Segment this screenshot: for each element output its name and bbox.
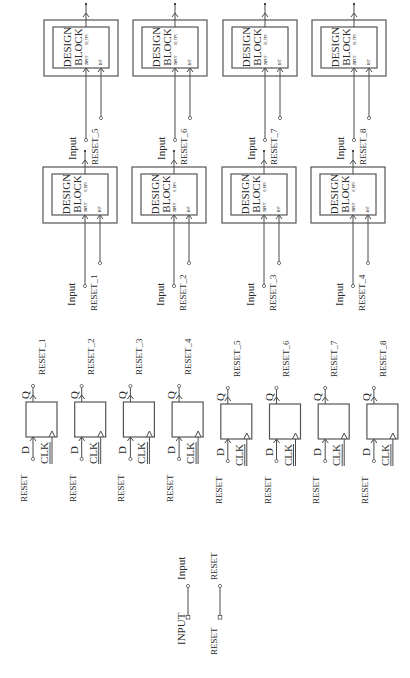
flip-flop-7: DCLKQRESETRESET_7 <box>311 340 349 504</box>
reset-terminal <box>367 116 370 119</box>
input-net-label: Input <box>154 283 166 306</box>
input-net-label: Input <box>155 137 167 160</box>
q-net-label: RESET_6 <box>281 340 291 377</box>
q-label: Q <box>19 391 31 399</box>
d-net-label: RESET <box>165 474 175 502</box>
input-terminal <box>263 138 266 141</box>
q-label: Q <box>214 393 226 401</box>
design-block-port-reset: RST <box>187 206 191 212</box>
q-terminal <box>178 384 181 387</box>
design-block-port-input: INPUT <box>173 203 177 212</box>
d-net-label: RESET <box>116 474 126 502</box>
output-port-marker <box>353 3 355 5</box>
d-net-label: RESET <box>214 476 224 504</box>
d-label: D <box>214 448 226 456</box>
design-block-port-output: O_UPS <box>352 182 356 192</box>
q-terminal <box>80 384 83 387</box>
d-terminal <box>275 459 278 462</box>
input-net-label: Input <box>334 137 346 160</box>
q-net-label: RESET_8 <box>378 340 388 377</box>
input-net-label: Input <box>66 137 78 160</box>
q-terminal <box>275 386 278 389</box>
port-name-label: RESET <box>209 627 219 655</box>
design-block-port-input: INPUT <box>353 56 357 65</box>
reset-terminal <box>98 261 101 264</box>
flip-flop-1: DCLKQRESETRESET_1 <box>19 338 57 502</box>
input-terminal <box>352 138 355 141</box>
design-block-port-output: IO_TPS <box>174 34 178 45</box>
q-label: Q <box>263 393 275 401</box>
port-net-label: Input <box>175 557 187 580</box>
q-label: Q <box>165 391 177 399</box>
reset-net-label: RESET_5 <box>90 128 100 165</box>
d-label: D <box>263 448 275 456</box>
design-block-title-line2: BLOCK <box>250 175 262 212</box>
flip-flop-6: DCLKQRESETRESET_6 <box>263 340 301 504</box>
design-block-port-output: O_UPS <box>84 182 88 192</box>
input-terminal <box>83 284 86 287</box>
design-block-port-reset: RST <box>98 206 102 212</box>
flip-flop-5: DCLKQRESETRESET_5 <box>214 340 252 504</box>
design-block-port-reset: RST <box>278 59 282 65</box>
design-block-port-reset: RST <box>367 59 371 65</box>
reset-net-label: RESET_4 <box>357 274 367 311</box>
design-block-port-output: IO_TPS <box>264 34 268 45</box>
reset-terminal <box>99 116 102 119</box>
reset-net-label: RESET_3 <box>268 274 278 311</box>
design-block-8: DESIGNBLOCKINPUTIO_TPSRSTInputRESET_8 <box>312 3 386 165</box>
output-port-marker <box>174 3 176 5</box>
design-block-title-line2: BLOCK <box>161 28 173 65</box>
reset-terminal <box>188 116 191 119</box>
design-block-port-output: IO_TPS <box>353 34 357 45</box>
d-terminal <box>129 457 132 460</box>
d-net-label: RESET <box>360 476 370 504</box>
q-label: Q <box>68 391 80 399</box>
q-terminal <box>324 386 327 389</box>
top-ports-layer: INPUTInputRESETRESET <box>175 552 222 655</box>
reset-terminal <box>277 261 280 264</box>
design-block-title-line2: BLOCK <box>160 175 172 212</box>
reset-terminal <box>187 261 190 264</box>
q-terminal <box>31 384 34 387</box>
d-terminal <box>178 457 181 460</box>
q-label: Q <box>311 393 323 401</box>
top-port-input: INPUTInput <box>175 557 190 645</box>
input-net-label: Input <box>65 283 77 306</box>
q-label: Q <box>360 393 372 401</box>
design-blocks-layer: DESIGNBLOCKINPUTO_UPSRSTInputRESET_1DESI… <box>43 3 386 311</box>
design-block-title-line2: BLOCK <box>339 175 351 212</box>
design-block-7: DESIGNBLOCKINPUTIO_TPSRSTInputRESET_7 <box>223 3 297 165</box>
design-block-port-output: IO_TPS <box>85 34 89 45</box>
design-block-port-input: INPUT <box>85 56 89 65</box>
reset-net-label: RESET_8 <box>358 128 368 165</box>
input-net-label: Input <box>244 283 256 306</box>
d-terminal <box>226 459 229 462</box>
port-terminal <box>186 584 189 587</box>
design-block-port-input: INPUT <box>174 56 178 65</box>
reset-net-label: RESET_1 <box>89 274 99 311</box>
flip-flop-4: DCLKQRESETRESET_4 <box>165 338 203 502</box>
design-block-port-input: INPUT <box>264 56 268 65</box>
input-net-label: Input <box>333 283 345 306</box>
d-label: D <box>360 448 372 456</box>
q-net-label: RESET_7 <box>329 340 339 377</box>
q-terminal <box>226 386 229 389</box>
input-terminal <box>262 284 265 287</box>
design-block-port-input: INPUT <box>352 203 356 212</box>
output-port-marker <box>85 3 87 5</box>
design-block-4: DESIGNBLOCKINPUTO_UPSRSTInputRESET_4 <box>311 150 385 311</box>
input-terminal <box>351 284 354 287</box>
clk-label: CLK <box>135 442 147 464</box>
design-block-3: DESIGNBLOCKINPUTO_UPSRSTInputRESET_3 <box>222 150 296 311</box>
design-block-port-input: INPUT <box>263 203 267 212</box>
d-label: D <box>311 448 323 456</box>
design-block-title-line2: BLOCK <box>71 175 83 212</box>
d-terminal <box>31 457 34 460</box>
design-block-port-reset: RST <box>366 206 370 212</box>
schematic-canvas: DESIGNBLOCKINPUTO_UPSRSTInputRESET_1DESI… <box>0 0 410 678</box>
design-block-2: DESIGNBLOCKINPUTO_UPSRSTInputRESET_2 <box>132 150 206 311</box>
clk-label: CLK <box>38 442 50 464</box>
clk-label: CLK <box>87 442 99 464</box>
reset-net-label: RESET_6 <box>179 128 189 165</box>
input-terminal <box>172 284 175 287</box>
